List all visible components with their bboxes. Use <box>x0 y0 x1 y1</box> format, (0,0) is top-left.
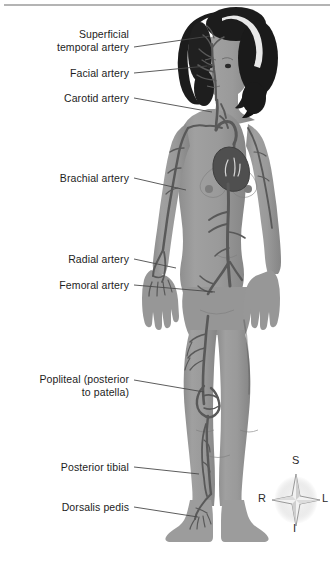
label-popliteal-artery: Popliteal (posteriorto patella) <box>39 373 129 398</box>
compass-label-superior: S <box>292 454 299 466</box>
label-line: Femoral artery <box>59 279 129 292</box>
label-line: Radial artery <box>68 253 129 266</box>
label-line: temporal artery <box>57 41 129 54</box>
label-line: to patella) <box>39 386 129 399</box>
label-brachial-artery: Brachial artery <box>60 172 129 185</box>
label-carotid-artery: Carotid artery <box>64 92 129 105</box>
label-line: Dorsalis pedis <box>62 501 129 514</box>
label-posterior-tibial-artery: Posterior tibial <box>61 461 129 474</box>
label-femoral-artery: Femoral artery <box>59 279 129 292</box>
label-line: Superficial <box>57 28 129 41</box>
anatomy-figure-panel: Superficialtemporal arteryFacial arteryC… <box>0 0 334 570</box>
label-facial-artery: Facial artery <box>70 67 129 80</box>
label-line: Facial artery <box>70 67 129 80</box>
label-line: Popliteal (posterior <box>39 373 129 386</box>
compass-label-inferior: I <box>293 522 296 534</box>
compass-label-left: L <box>322 492 328 504</box>
label-line: Carotid artery <box>64 92 129 105</box>
label-superficial-temporal-artery: Superficialtemporal artery <box>57 28 129 53</box>
leader-line-posterior-tibial-artery <box>134 467 199 474</box>
label-line: Brachial artery <box>60 172 129 185</box>
label-line: Posterior tibial <box>61 461 129 474</box>
compass-label-right: R <box>258 492 266 504</box>
label-dorsalis-pedis-artery: Dorsalis pedis <box>62 501 129 514</box>
anatomical-orientation-compass: S I R L <box>262 458 330 540</box>
label-radial-artery: Radial artery <box>68 253 129 266</box>
